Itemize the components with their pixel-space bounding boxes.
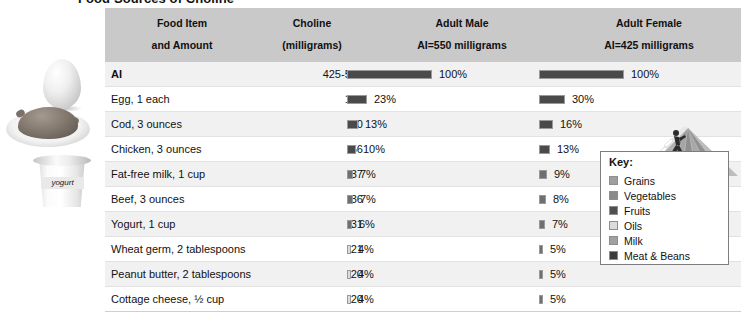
- cell-male-bar: 6%: [347, 212, 543, 236]
- percent-bar: [347, 145, 356, 154]
- cell-food-item: Peanut butter, 2 tablespoons: [111, 262, 251, 286]
- cell-female-bar: 5%: [539, 262, 739, 286]
- key-item-label: Fruits: [624, 205, 650, 217]
- cell-male-bar: 7%: [347, 162, 543, 186]
- percent-bar: [539, 145, 550, 154]
- percent-label: 10%: [363, 143, 385, 155]
- egg-photo: [43, 59, 81, 109]
- key-swatch-icon: [609, 236, 618, 245]
- percent-label: 16%: [560, 118, 582, 130]
- cell-food-item: Egg, 1 each: [111, 87, 170, 111]
- percent-label: 7%: [360, 168, 376, 180]
- percent-bar: [347, 245, 351, 254]
- cell-male-bar: 4%: [347, 237, 543, 261]
- percent-label: 5%: [550, 268, 566, 280]
- percent-label: 23%: [374, 93, 396, 105]
- key-item-label: Milk: [624, 235, 643, 247]
- percent-bar: [347, 120, 358, 129]
- cell-male-bar: 7%: [347, 187, 543, 211]
- key-item: Milk: [609, 233, 690, 248]
- key-item-label: Meat & Beans: [624, 250, 690, 262]
- percent-bar: [347, 195, 353, 204]
- percent-bar: [539, 270, 543, 279]
- cell-food-item: Chicken, 3 ounces: [111, 137, 202, 161]
- percent-label: 13%: [557, 143, 579, 155]
- percent-bar: [539, 195, 546, 204]
- cell-food-item: Cod, 3 ounces: [111, 112, 182, 136]
- percent-bar: [347, 170, 353, 179]
- key-title: Key:: [609, 156, 633, 168]
- percent-label: 4%: [358, 268, 374, 280]
- table-row: AI425-550100%100%: [105, 62, 741, 87]
- percent-label: 7%: [360, 193, 376, 205]
- cell-food-item: Wheat germ, 2 tablespoons: [111, 237, 246, 261]
- cell-female-bar: 5%: [539, 287, 739, 311]
- cell-food-item: AI: [111, 62, 122, 86]
- table-header-row: Food Item and Amount Choline (milligrams…: [105, 8, 741, 62]
- key-item-label: Grains: [624, 175, 655, 187]
- percent-label: 4%: [358, 293, 374, 305]
- key-item: Oils: [609, 218, 690, 233]
- percent-bar: [539, 220, 545, 229]
- cell-food-item: Beef, 3 ounces: [111, 187, 184, 211]
- key-swatch-icon: [609, 176, 618, 185]
- percent-label: 5%: [550, 293, 566, 305]
- percent-bar: [539, 95, 565, 104]
- key-item: Fruits: [609, 203, 690, 218]
- percent-bar: [347, 95, 367, 104]
- cell-food-item: Fat-free milk, 1 cup: [111, 162, 205, 186]
- key-item-label: Oils: [624, 220, 642, 232]
- yogurt-label: yogurt: [41, 177, 84, 189]
- percent-bar: [347, 70, 432, 79]
- cell-food-item: Yogurt, 1 cup: [111, 212, 175, 236]
- key-item: Grains: [609, 173, 690, 188]
- cell-female-bar: 30%: [539, 87, 739, 111]
- percent-label: 6%: [359, 218, 375, 230]
- key-swatch-icon: [609, 221, 618, 230]
- roast-chicken-photo: [18, 107, 78, 139]
- percent-label: 30%: [572, 93, 594, 105]
- key-swatch-icon: [609, 191, 618, 200]
- cell-male-bar: 10%: [347, 137, 543, 161]
- percent-label: 5%: [550, 243, 566, 255]
- key-swatch-icon: [609, 251, 618, 260]
- cell-female-bar: 100%: [539, 62, 739, 86]
- percent-bar: [539, 170, 547, 179]
- table-row: Cottage cheese, ½ cup204%5%: [105, 287, 741, 312]
- page-title: Food Sources of Choline: [78, 0, 234, 6]
- column-header-choline: Choline (milligrams): [257, 17, 367, 51]
- percent-bar: [539, 70, 624, 79]
- key-swatch-icon: [609, 206, 618, 215]
- key-item-label: Vegetables: [624, 190, 676, 202]
- cell-male-bar: 13%: [347, 112, 543, 136]
- key-item: Vegetables: [609, 188, 690, 203]
- column-header-food-item: Food Item and Amount: [107, 17, 257, 51]
- percent-bar: [347, 295, 351, 304]
- key-item: Meat & Beans: [609, 248, 690, 263]
- percent-label: 9%: [554, 168, 570, 180]
- cell-male-bar: 23%: [347, 87, 543, 111]
- key-items: GrainsVegetablesFruitsOilsMilkMeat & Bea…: [609, 173, 690, 263]
- cell-male-bar: 100%: [347, 62, 543, 86]
- percent-label: 100%: [631, 68, 659, 80]
- percent-bar: [347, 270, 351, 279]
- percent-label: 100%: [439, 68, 467, 80]
- yogurt-cup-lid: [33, 155, 91, 166]
- key-legend-box: Key: GrainsVegetablesFruitsOilsMilkMeat …: [600, 151, 729, 265]
- percent-label: 13%: [365, 118, 387, 130]
- percent-label: 8%: [553, 193, 569, 205]
- percent-bar: [539, 295, 543, 304]
- food-photos: yogurt: [0, 55, 105, 245]
- table-row: Egg, 1 each12623%30%: [105, 87, 741, 112]
- percent-label: 4%: [358, 243, 374, 255]
- percent-label: 7%: [552, 218, 568, 230]
- cell-food-item: Cottage cheese, ½ cup: [111, 287, 224, 311]
- percent-bar: [539, 120, 553, 129]
- table-row: Peanut butter, 2 tablespoons204%5%: [105, 262, 741, 287]
- percent-bar: [539, 245, 543, 254]
- cell-male-bar: 4%: [347, 287, 543, 311]
- cell-male-bar: 4%: [347, 262, 543, 286]
- percent-bar: [347, 220, 352, 229]
